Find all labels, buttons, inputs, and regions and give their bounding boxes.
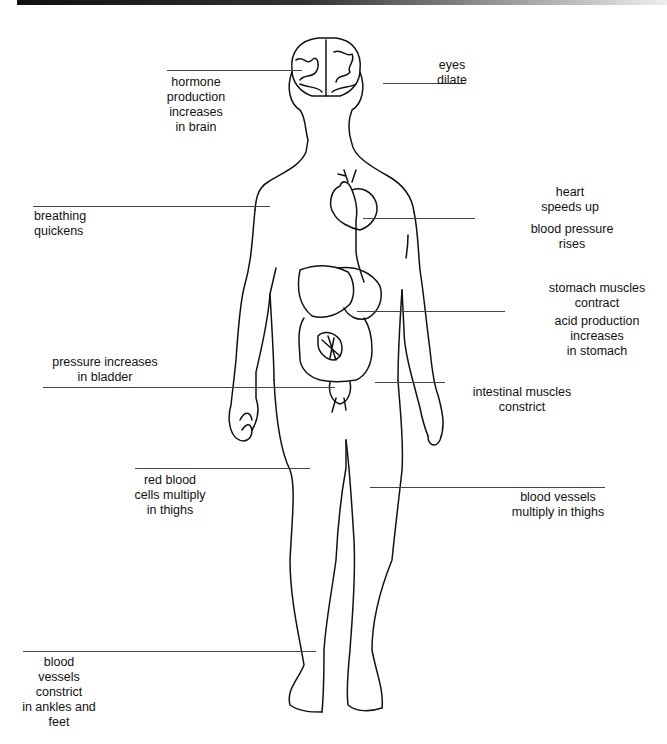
left-leg-outline xyxy=(274,380,322,712)
leader-line-hormone xyxy=(167,70,302,71)
intestines-icon xyxy=(299,318,372,382)
leader-line-vessels-thighs xyxy=(370,487,605,488)
leader-line-intestinal xyxy=(375,382,445,383)
label-blood-pressure: blood pressure rises xyxy=(522,222,622,252)
label-bladder: pressure increases in bladder xyxy=(44,355,166,385)
leader-line-breathing xyxy=(33,206,270,207)
leader-line-heart xyxy=(363,218,475,219)
leader-line-stomach xyxy=(357,311,505,312)
label-hormone: hormone production increases in brain xyxy=(165,75,227,135)
label-intestinal: intestinal muscles constrict xyxy=(462,385,582,415)
right-arm-outline xyxy=(414,212,443,445)
label-acid: acid production increases in stomach xyxy=(545,314,649,359)
label-eyes: eyes dilate xyxy=(432,58,472,88)
label-vessels-thighs: blood vessels multiply in thighs xyxy=(508,490,608,520)
brain-icon xyxy=(292,38,361,96)
bladder-icon xyxy=(329,382,350,404)
label-heart: heart speeds up xyxy=(525,185,615,215)
left-arm-outline xyxy=(229,210,255,441)
label-breathing: breathing quickens xyxy=(34,209,114,239)
leader-line-bladder xyxy=(43,387,335,388)
label-stomach-muscles: stomach muscles contract xyxy=(540,281,654,311)
label-vessels-ankles: blood vessels constrict in ankles and fe… xyxy=(18,655,100,730)
heart-icon xyxy=(331,182,377,230)
leader-line-vessels-ankles xyxy=(23,651,316,652)
leader-line-red-blood xyxy=(135,468,310,469)
label-red-blood: red blood cells multiply in thighs xyxy=(128,473,212,518)
head-outline xyxy=(255,72,308,210)
